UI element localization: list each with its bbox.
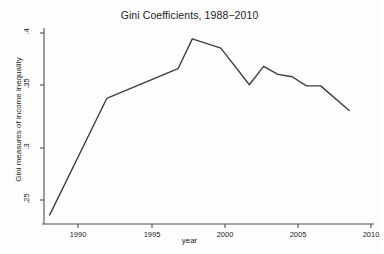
y-axis-tick-marks	[40, 33, 44, 200]
data-series-line	[50, 39, 349, 215]
x-axis-tick-marks	[78, 224, 371, 228]
axes-group	[40, 28, 374, 228]
